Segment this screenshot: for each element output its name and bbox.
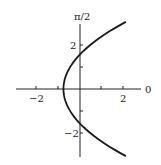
axis-label-right: 0 — [145, 84, 151, 95]
axis-label-top: π/2 — [74, 11, 90, 22]
x-tick-label-pos2: 2 — [120, 93, 126, 104]
x-tick-label-neg2: −2 — [29, 93, 44, 104]
polar-plot: π/2 0 −2 2 2 −2 — [0, 0, 161, 165]
y-tick-label-pos2: 2 — [70, 40, 76, 51]
y-tick-label-neg2: −2 — [64, 128, 79, 139]
